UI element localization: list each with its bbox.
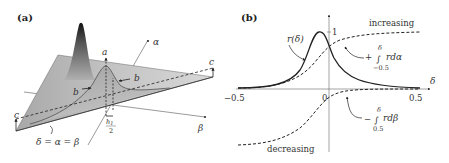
panel-a: (a) α β c c a b b h1: [14, 12, 214, 147]
panel-a-label: (a): [17, 12, 33, 23]
int-minus-pointer: [347, 97, 362, 118]
int-plus-lower: −0.5: [373, 64, 389, 72]
int-plus-upper: δ: [378, 44, 382, 52]
decreasing-label: decreasing: [267, 144, 315, 154]
int-minus-upper: δ: [377, 106, 381, 114]
int-minus-sign: −: [364, 114, 371, 124]
int-plus-sign: +: [365, 52, 372, 62]
c-right-label: c: [209, 57, 214, 67]
alpha-axis-arrow-icon: [147, 40, 149, 42]
a-axis-label: a: [102, 47, 107, 57]
beta-axis-label: β: [197, 123, 203, 133]
int-minus-lower: 0.5: [373, 125, 383, 133]
h-denominator: 2: [109, 127, 113, 135]
int-plus-pointer: [345, 47, 364, 58]
b-right-label: b: [134, 73, 140, 83]
beta-axis-arrow-icon: [204, 116, 206, 118]
panel-b-label: (b): [241, 12, 257, 23]
r-delta-pointer: [289, 45, 305, 60]
figure: (a) α β c c a b b h1: [0, 0, 449, 163]
x-tick-neg: −0.5: [224, 93, 245, 103]
beta-axis: [113, 105, 205, 117]
h-label: h1: [106, 118, 113, 126]
r-delta-label: r(δ): [287, 34, 304, 44]
x-axis-label: δ: [430, 76, 435, 86]
int-minus-symbol: ∫: [374, 115, 379, 125]
y-tick-1: 1: [332, 27, 337, 37]
increasing-label: increasing: [369, 18, 415, 28]
diagonal-label: δ = α = β: [36, 137, 79, 147]
b-left-label: b: [73, 87, 79, 97]
int-plus-symbol: ∫: [376, 54, 381, 64]
alpha-axis-label: α: [153, 37, 159, 47]
tall-peak: [64, 23, 95, 80]
x-tick-pos: 0.5: [409, 93, 423, 103]
int-minus-integrand: rdβ: [383, 113, 398, 123]
int-plus-integrand: rdα: [386, 52, 402, 62]
c-left-label: c: [14, 110, 19, 120]
panel-b: (b) δ 1 −0.5 0 0.5 r(δ) increasing decre…: [224, 12, 435, 154]
diagonal-pointer: [50, 126, 52, 134]
